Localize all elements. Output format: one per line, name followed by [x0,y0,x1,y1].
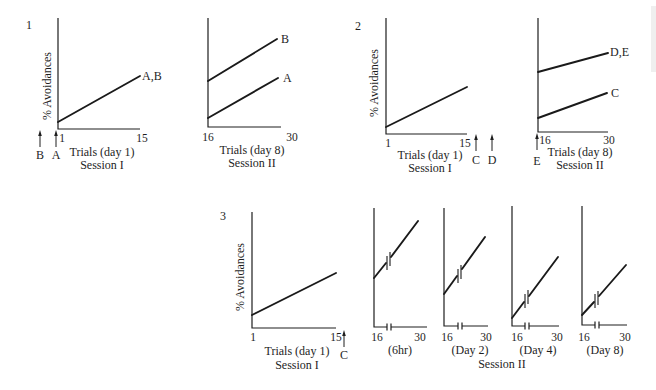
x-tick-start: 16 [441,331,453,343]
session-label: Session II [228,156,276,170]
panel-3-subpanel-day-8: 16 30 (Day 8) [578,206,631,357]
x-axis-label: Trials (day 8) [220,143,285,157]
series-line-AB [58,76,140,122]
panel-1-session-2-chart: B A 16 30 Trials (day 8) Session II [202,18,298,170]
series-line-segment-2 [599,265,626,296]
panel-2-session-1-chart: % Avoidances 1 15 Trials (day 1) Session… [367,18,497,175]
panel-3-subpanel-day-2: 16 30 (Day 2) [441,208,492,357]
arrow-up-icon [54,130,58,147]
session-label: Session II [478,357,526,371]
x-axis-label: Trials (day 1) [265,344,330,358]
panel-1-session-1-chart: % Avoidances A,B 1 15 Trials (day 1) Ses… [36,18,162,172]
series-label-B: B [281,32,289,46]
panel-2-session-2-chart: D,E C 16 30 Trials (day 8) Session II E [533,18,629,172]
x-tick-start: 16 [578,331,590,343]
break-mark-icon [458,265,461,283]
figure-canvas: 1 % Avoidances A,B 1 15 Trials (day 1) S… [0,0,656,390]
x-tick-start: 16 [371,331,383,343]
axes [252,212,336,328]
arrow-up-icon [38,130,42,147]
arrow-label-C: C [340,348,348,362]
series-line [386,87,467,127]
x-tick-end: 30 [551,331,563,343]
arrow-up-icon [474,134,478,151]
series-line-segment-2 [462,237,485,269]
panel-1: 1 % Avoidances A,B 1 15 Trials (day 1) S… [26,18,298,172]
break-mark-icon [595,291,598,308]
x-tick-end: 15 [330,331,342,343]
break-mark-icon [525,290,528,308]
axes-with-break [582,206,627,329]
arrow-label-A: A [52,148,61,162]
arrow-label-C: C [472,153,480,167]
session-label: Session I [275,358,319,372]
panel-2: 2 % Avoidances 1 15 Trials (day 1) Sessi… [355,18,629,175]
panel-3-subpanel-6hr: 16 30 (6hr) [371,208,427,357]
x-axis-label: Trials (day 1) [70,145,135,159]
session-label: Session I [408,161,452,175]
axes-with-break [512,206,559,330]
session-label: Session II [556,158,604,172]
panel-number: 1 [26,18,32,32]
series-label-DE: D,E [610,45,629,59]
axes [386,18,467,134]
x-tick-start: 1 [385,137,391,149]
subpanel-label: (Day 2) [452,343,489,357]
axes-with-break [444,208,488,330]
series-line-DE [538,53,608,72]
subpanel-label: (Day 8) [587,343,624,357]
series-line-segment-2 [529,257,558,296]
axes [58,18,140,129]
series-line-segment-1 [512,302,524,318]
arrow-label-B: B [36,148,44,162]
break-mark-icon [387,252,390,270]
series-label-C: C [611,86,619,100]
x-tick-end: 15 [136,132,148,144]
series-line-segment-1 [374,263,386,278]
subpanel-label: (Day 4) [520,343,557,357]
series-label-A: A [283,71,292,85]
series-line-A [208,78,278,118]
panel-3-subpanel-day-4: 16 30 (Day 4) [511,206,563,357]
subpanel-label: (6hr) [388,343,412,357]
panel-number: 3 [220,209,226,223]
arrow-label-E: E [533,154,540,168]
x-tick-end: 30 [414,331,426,343]
page-edge-shadow [651,6,656,72]
arrow-label-D: D [488,153,497,167]
panel-number: 2 [355,19,361,33]
x-axis-label: Trials (day 8) [548,145,613,159]
arrow-up-icon [535,133,539,150]
series-line-C [538,93,607,118]
y-axis-label: % Avoidances [40,52,54,120]
series-line [252,273,336,315]
x-tick-start: 1 [250,331,256,343]
series-label: A,B [142,69,162,83]
arrow-up-icon [490,134,494,151]
series-line-B [208,39,277,81]
x-tick-end: 30 [619,331,631,343]
series-line-segment-1 [444,276,457,294]
series-line-segment-1 [582,302,594,315]
x-tick-start: 16 [511,331,523,343]
x-tick-start: 16 [202,131,214,143]
session-label: Session I [80,158,124,172]
arrow-up-icon [342,330,346,347]
x-tick-start: 1 [59,132,65,144]
y-axis-label: % Avoidances [233,243,247,311]
x-tick-end: 30 [480,331,492,343]
panel-3-session-1-chart: % Avoidances 1 15 Trials (day 1) Session… [233,212,348,372]
series-line-segment-2 [391,221,418,257]
x-axis-label: Trials (day 1) [398,148,463,162]
y-axis-label: % Avoidances [367,49,381,117]
x-tick-end: 30 [286,131,298,143]
panel-3: 3 % Avoidances 1 15 Trials (day 1) Sessi… [220,206,631,372]
